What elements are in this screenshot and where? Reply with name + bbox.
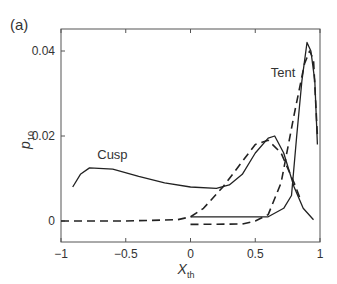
y-axis-label: p10 — [17, 131, 36, 150]
x-tick-label: 0 — [187, 247, 194, 261]
y-tick-label: 0 — [48, 214, 55, 228]
annotation-label: Cusp — [97, 147, 127, 162]
line-chart: (a) 00.020.04 −1−0.500.51 CuspTent Xth p… — [0, 0, 337, 284]
annotation-label: Tent — [271, 65, 296, 80]
x-tick-label: −0.5 — [114, 247, 138, 261]
panel-label: (a) — [10, 16, 28, 33]
series-line — [191, 43, 318, 217]
x-axis-label: Xth — [177, 261, 195, 280]
x-tick-label: 1 — [317, 247, 324, 261]
x-tick-label: 0.5 — [247, 247, 264, 261]
y-axis: 00.020.04 — [32, 44, 65, 228]
x-tick-label: −1 — [54, 247, 68, 261]
y-tick-label: 0.04 — [32, 44, 56, 58]
annotations: CuspTent — [97, 65, 295, 163]
